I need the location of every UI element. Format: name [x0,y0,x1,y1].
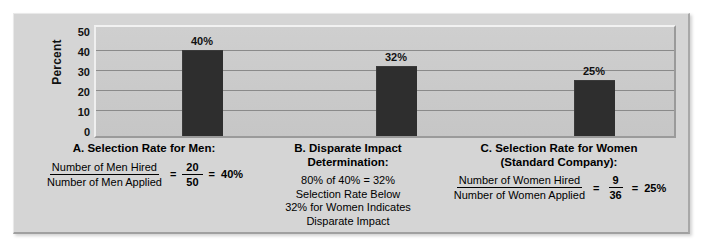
caption-c-result: 25% [644,182,666,194]
caption-column-a: A. Selection Rate for Men: Number of Men… [28,142,260,188]
caption-b-line: 80% of 40% = 32% [250,174,446,188]
fraction-numeric-c: 9 36 [605,174,625,201]
figure-root: Percent 50 40 30 20 10 0 40% [0,0,705,247]
bar-label-b: 32% [366,51,426,63]
equals-sign-a-2: = [209,168,215,180]
caption-b-title-line2: Determination: [250,156,446,170]
fraction-numeric-a: 20 50 [182,161,202,188]
caption-a-result: 40% [221,168,243,180]
fraction-denominator-a: Number of Men Applied [45,175,164,188]
y-axis-tick-labels: 50 40 30 20 10 0 [58,25,90,138]
y-tick-label: 30 [58,67,90,77]
bar-chart: Percent 50 40 30 20 10 0 40% [28,25,676,138]
caption-a-title: A. Selection Rate for Men: [28,142,260,156]
caption-c-formula: Number of Women Hired Number of Women Ap… [442,174,676,201]
fraction-numeric-denominator-c: 36 [605,188,625,201]
caption-c-title-line1: C. Selection Rate for Women [442,142,676,156]
bar-label-a: 40% [172,35,232,47]
plot-area: 40% 32% 25% [94,25,676,138]
y-tick-label: 10 [58,107,90,117]
fraction-numerator-a: Number of Men Hired [50,161,159,175]
caption-b-line: Selection Rate Below [250,188,446,202]
caption-row: A. Selection Rate for Men: Number of Men… [28,142,676,228]
fraction-numeric-numerator-a: 20 [182,161,202,175]
caption-b-title: B. Disparate Impact Determination: [250,142,446,169]
caption-c-title-line2: (Standard Company): [442,156,676,170]
y-tick-label: 40 [58,47,90,57]
fraction-words-c: Number of Women Hired Number of Women Ap… [452,174,587,201]
caption-b-body: 80% of 40% = 32% Selection Rate Below 32… [250,174,446,228]
bar-label-c: 25% [564,65,624,77]
equals-sign-a-1: = [170,168,176,180]
fraction-words-a: Number of Men Hired Number of Men Applie… [45,161,164,188]
caption-b-line: Disparate Impact [250,215,446,229]
fraction-numeric-numerator-c: 9 [609,174,623,188]
fraction-denominator-c: Number of Women Applied [452,188,587,201]
caption-column-c: C. Selection Rate for Women (Standard Co… [442,142,676,201]
caption-a-formula: Number of Men Hired Number of Men Applie… [28,161,260,188]
equals-sign-c-1: = [593,182,599,194]
equals-sign-c-2: = [632,182,638,194]
bar-disparate-impact-threshold [376,66,417,137]
caption-b-line: 32% for Women Indicates [250,201,446,215]
figure-panel: Percent 50 40 30 20 10 0 40% [13,13,690,234]
bar-selection-rate-men [182,50,223,137]
bar-selection-rate-women [574,80,615,137]
y-tick-label: 0 [58,127,90,137]
caption-b-title-line1: B. Disparate Impact [250,142,446,156]
caption-c-title: C. Selection Rate for Women (Standard Co… [442,142,676,169]
fraction-numerator-c: Number of Women Hired [457,174,582,188]
y-tick-label: 20 [58,87,90,97]
y-tick-label: 50 [58,27,90,37]
caption-column-b: B. Disparate Impact Determination: 80% o… [250,142,446,228]
fraction-numeric-denominator-a: 50 [182,175,202,188]
